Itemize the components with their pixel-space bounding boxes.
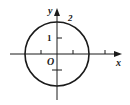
y-axis-arrow-icon xyxy=(54,8,60,16)
y-tick-label-1: 1 xyxy=(47,34,52,43)
origin-label: O xyxy=(47,57,54,67)
diagram-graphics xyxy=(0,0,130,105)
x-axis-label: x xyxy=(116,58,121,68)
coordinate-diagram: y x O 2 1 xyxy=(0,0,130,105)
radius-label: 2 xyxy=(68,14,73,23)
y-axis-label: y xyxy=(48,6,52,16)
